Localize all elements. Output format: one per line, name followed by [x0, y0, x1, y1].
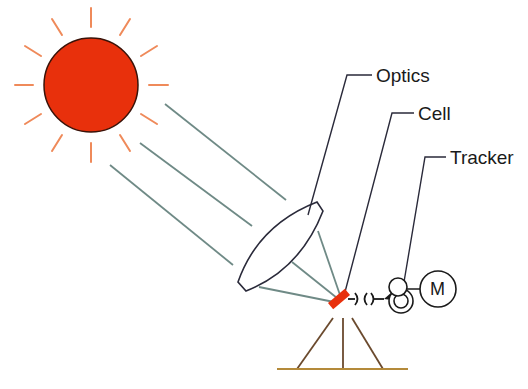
- motor-label: M: [430, 280, 445, 298]
- optics-leader-line: [308, 75, 372, 215]
- diagram-canvas: [0, 0, 528, 389]
- tracker-label: Tracker: [450, 148, 514, 167]
- tracker-gears-icon: [389, 278, 413, 313]
- cell-leader-line: [345, 113, 414, 292]
- sun-icon: [44, 38, 138, 132]
- cell-label: Cell: [418, 104, 451, 123]
- light-rays: [110, 104, 286, 265]
- tripod-stand-icon: [297, 318, 383, 369]
- optics-label: Optics: [376, 66, 430, 85]
- coupling-shaft-icon: [348, 292, 392, 305]
- tracker-leader-line: [404, 157, 446, 282]
